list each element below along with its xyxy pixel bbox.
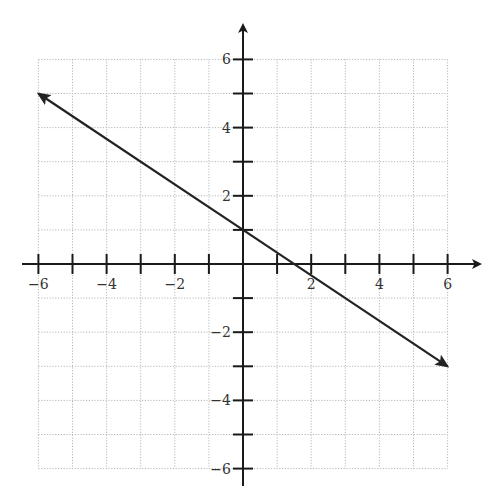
y-tick-label: −4 (210, 392, 231, 408)
coordinate-plane: −6−4−2246642−2−4−6 (0, 0, 490, 497)
x-tick-label: −4 (96, 276, 117, 292)
x-tick-label: −2 (164, 276, 185, 292)
y-tick-label: 6 (222, 51, 231, 67)
x-tick-label: 4 (375, 276, 384, 292)
y-tick-label: 2 (222, 188, 231, 204)
y-tick-label: −6 (210, 461, 231, 477)
x-tick-label: −6 (28, 276, 49, 292)
y-tick-label: 4 (222, 120, 231, 136)
x-tick-label: 6 (443, 276, 452, 292)
y-tick-label: −2 (210, 324, 231, 340)
